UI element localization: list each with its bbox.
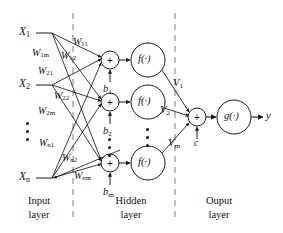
layer-divider-lines: [73, 13, 175, 221]
input-label-x1: X1: [19, 26, 30, 39]
hidden-sum-ellipsis-dots: [108, 138, 111, 162]
weight-label-vm: Vm: [168, 138, 180, 150]
weight-label-w1m: W1m: [32, 48, 49, 59]
weight-label-v2: V2: [160, 105, 170, 117]
hidden-sum-plus-2: +: [107, 97, 113, 108]
weight-label-w21: W21: [38, 66, 53, 77]
sum-to-activation-arrows: [119, 60, 130, 163]
input-ellipsis-dots: [26, 122, 29, 146]
bias-label-c: c: [194, 139, 198, 149]
hidden-sum-plus-1: +: [107, 55, 113, 66]
bias-label-b2: b2: [103, 126, 112, 138]
activation-label-1: f(·): [138, 54, 151, 65]
weight-label-wn1: Wn1: [39, 138, 54, 149]
weight-label-wn2: Wn2: [62, 153, 77, 164]
input-layer-line1: Input: [10, 194, 68, 208]
weight-label-w11: W11: [73, 37, 88, 48]
output-layer-line1: Ouput: [188, 194, 250, 208]
hidden-layer-line2: layer: [100, 208, 162, 222]
bias-label-b1: b1: [103, 84, 112, 96]
activation-label-m: f(·): [138, 157, 151, 168]
weight-label-w2m: W2m: [38, 106, 55, 117]
input-layer-line2: layer: [10, 208, 68, 222]
output-layer-line2: layer: [188, 208, 250, 222]
layer-caption-input: Input layer: [10, 194, 68, 222]
weight-label-wnm: Wnm: [74, 171, 91, 182]
output-sum-plus: +: [194, 112, 200, 123]
weight-label-w22: W22: [54, 91, 69, 102]
activation-ellipsis-dots: [146, 128, 149, 152]
activation-label-2: f(·): [138, 96, 151, 107]
layer-caption-hidden: Hidden layer: [100, 194, 162, 222]
weight-label-v1: V1: [173, 78, 183, 90]
weight-label-w12: W12: [61, 51, 76, 62]
input-label-xn: Xn: [19, 171, 30, 184]
output-result-label: y: [266, 110, 271, 121]
hidden-layer-line1: Hidden: [100, 194, 162, 208]
input-label-x2: X2: [19, 78, 30, 91]
neural-network-diagram: X1 X2 Xn W11 W12 W1m W21 W22 W2m Wn1 Wn2…: [0, 0, 283, 233]
layer-caption-output: Ouput layer: [188, 194, 250, 222]
output-activation-label: g(·): [224, 111, 239, 122]
